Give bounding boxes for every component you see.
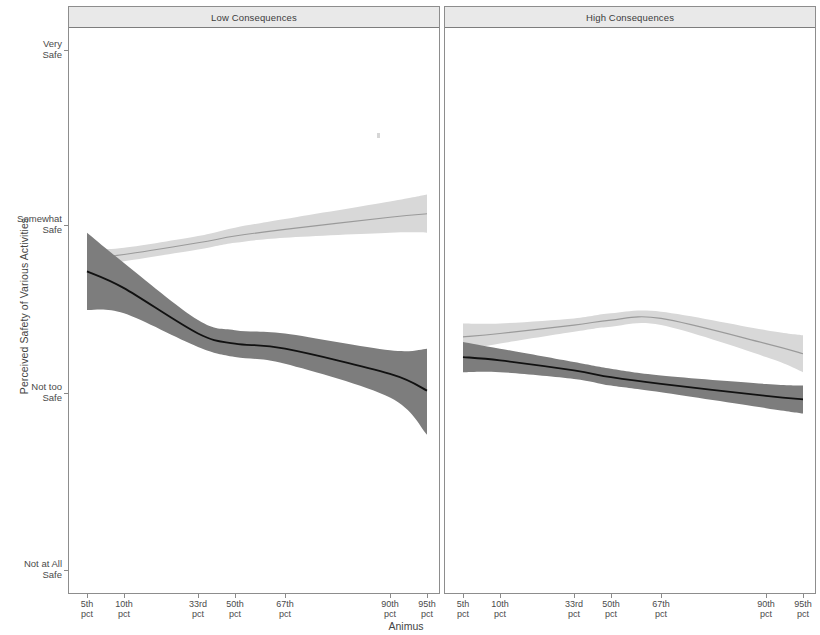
scan-artifact-speck — [377, 133, 380, 138]
panel-strip-label: High Consequences — [586, 12, 674, 23]
plot-area-low — [69, 29, 439, 593]
panel-strip-label: Low Consequences — [211, 12, 297, 23]
x-axis-title: Animus — [0, 620, 812, 632]
confidence-band — [87, 195, 427, 267]
x-axis-tick-mark — [611, 594, 612, 598]
x-axis-tick-mark — [766, 594, 767, 598]
x-axis-tick-mark — [285, 594, 286, 598]
x-axis-tick-label: 67th pct — [265, 599, 305, 619]
y-axis-tick-label: Not too Safe — [0, 382, 62, 403]
x-axis-tick-label: 10th pct — [480, 599, 520, 619]
panel-high-consequences: High Consequences — [444, 6, 816, 594]
x-axis-tick-mark — [463, 594, 464, 598]
confidence-band — [463, 342, 803, 414]
x-axis-tick-mark — [803, 594, 804, 598]
x-axis-tick-mark — [427, 594, 428, 598]
y-axis-tick-label: Not at All Safe — [0, 559, 62, 580]
x-axis-tick-label: 95th pct — [407, 599, 447, 619]
y-axis-tick-label: Very Safe — [0, 39, 62, 60]
x-axis-tick-mark — [390, 594, 391, 598]
x-axis-tick-label: 10th pct — [104, 599, 144, 619]
plot-svg-high — [445, 29, 815, 593]
panel-strip-high: High Consequences — [445, 7, 815, 28]
x-axis-tick-label: 5th pct — [443, 599, 483, 619]
y-axis-tick-label: Somewhat Safe — [0, 214, 62, 235]
x-axis-tick-label: 67th pct — [641, 599, 681, 619]
x-axis-tick-label: 50th pct — [591, 599, 631, 619]
x-axis-tick-mark — [198, 594, 199, 598]
x-axis-tick-label: 50th pct — [215, 599, 255, 619]
x-axis-tick-mark — [87, 594, 88, 598]
x-axis-tick-mark — [235, 594, 236, 598]
x-axis-tick-mark — [574, 594, 575, 598]
confidence-band — [87, 233, 427, 435]
x-axis-tick-mark — [124, 594, 125, 598]
plot-area-high — [445, 29, 815, 593]
x-axis-tick-mark — [661, 594, 662, 598]
x-axis-tick-label: 5th pct — [67, 599, 107, 619]
x-axis-tick-mark — [500, 594, 501, 598]
x-axis-tick-label: 33rd pct — [178, 599, 218, 619]
x-axis-tick-label: 90th pct — [746, 599, 786, 619]
plot-svg-low — [69, 29, 439, 593]
panel-low-consequences: Low Consequences — [68, 6, 440, 594]
panel-strip-low: Low Consequences — [69, 7, 439, 28]
x-axis-tick-label: 90th pct — [370, 599, 410, 619]
x-axis-tick-label: 95th pct — [783, 599, 820, 619]
x-axis-tick-label: 33rd pct — [554, 599, 594, 619]
y-axis-title: Perceived Safety of Various Activities — [18, 206, 30, 406]
